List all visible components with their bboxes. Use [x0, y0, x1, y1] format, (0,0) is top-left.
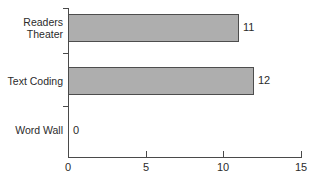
category-label-readers-theater-text: Readers Theater — [23, 16, 63, 40]
x-axis-label-15: 15 — [281, 161, 310, 174]
bar-chart: 11 12 0 Readers Theater Text Coding Word… — [0, 0, 310, 180]
category-label-word-wall: Word Wall — [15, 124, 63, 136]
y-axis-tick — [63, 8, 68, 9]
x-axis-label-0: 0 — [48, 161, 88, 174]
bar-text-coding — [68, 67, 254, 95]
x-axis — [68, 157, 301, 158]
bar-value-text-coding: 12 — [258, 74, 270, 87]
y-axis-tick — [63, 53, 68, 54]
bar-value-readers-theater: 11 — [243, 21, 254, 34]
category-label-text-coding: Text Coding — [8, 75, 63, 87]
x-axis-tick — [68, 151, 69, 158]
bar-readers-theater — [68, 14, 239, 42]
bar-value-word-wall: 0 — [73, 124, 79, 137]
x-axis-label-10: 10 — [203, 161, 243, 174]
x-axis-tick — [301, 151, 302, 158]
y-axis-tick — [63, 106, 68, 107]
x-axis-tick — [146, 151, 147, 158]
x-axis-label-5: 5 — [126, 161, 166, 174]
x-axis-tick — [223, 151, 224, 158]
y-axis — [68, 8, 69, 158]
category-label-readers-theater: Readers Theater — [23, 16, 63, 40]
